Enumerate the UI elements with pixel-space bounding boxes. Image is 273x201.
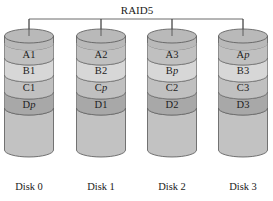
block-label: D3	[237, 99, 250, 110]
block-label: A1	[23, 49, 36, 60]
disk-0: DpC1B1A1Disk 0	[5, 19, 54, 192]
connector-lines	[29, 19, 243, 36]
block-label: Cp	[95, 82, 107, 93]
disk-3: D3C3B3ApDisk 3	[219, 19, 268, 192]
disk-body	[148, 108, 197, 157]
block-label: D1	[95, 99, 108, 110]
disk-label: Disk 1	[87, 181, 115, 192]
block-label: C1	[23, 82, 35, 93]
disk-body	[219, 108, 268, 157]
disk-label: Disk 3	[229, 181, 257, 192]
block-label: B1	[23, 65, 35, 76]
block-label: Bp	[166, 65, 178, 76]
block-label: A2	[95, 49, 108, 60]
block-label: B2	[95, 65, 107, 76]
block-label: A3	[166, 49, 179, 60]
block-label: B3	[237, 65, 249, 76]
disk-body	[77, 108, 126, 157]
disk-1: D1CpB2A2Disk 1	[77, 19, 126, 192]
block-label: Dp	[23, 99, 36, 110]
disk-label: Disk 2	[158, 181, 186, 192]
block-label: C2	[166, 82, 178, 93]
raid5-diagram: RAID5 DpC1B1A1Disk 0D1CpB2A2Disk 1D2C2Bp…	[0, 0, 273, 201]
disk-body	[5, 108, 54, 157]
disk-2: D2C2BpA3Disk 2	[148, 19, 197, 192]
block-label: D2	[166, 99, 179, 110]
diagram-title: RAID5	[121, 4, 154, 16]
block-label: C3	[237, 82, 249, 93]
block-label: Ap	[237, 49, 250, 60]
disk-label: Disk 0	[15, 181, 43, 192]
